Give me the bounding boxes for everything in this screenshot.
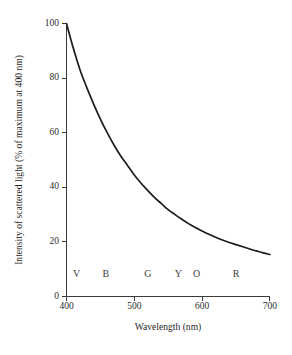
spectrum-band-labels: V B G Y O R bbox=[73, 268, 240, 279]
band-label-blue: B bbox=[102, 268, 109, 279]
scattering-intensity-curve bbox=[67, 24, 270, 255]
x-tick-label-500: 500 bbox=[127, 301, 142, 311]
y-tick-label-80: 80 bbox=[50, 72, 60, 82]
y-axis-title: Intensity of scattered light (% of maxim… bbox=[13, 55, 25, 265]
band-label-orange: O bbox=[193, 268, 200, 279]
x-tick-label-400: 400 bbox=[59, 301, 74, 311]
band-label-green: G bbox=[144, 268, 151, 279]
x-axis-ticks bbox=[67, 297, 270, 302]
y-axis-ticks bbox=[62, 24, 67, 297]
y-tick-label-100: 100 bbox=[45, 18, 60, 28]
scattering-intensity-figure: 0 20 40 60 80 100 400 500 600 700 V B G … bbox=[0, 0, 292, 355]
y-tick-label-40: 40 bbox=[50, 181, 60, 191]
band-label-violet: V bbox=[73, 268, 81, 279]
x-tick-label-700: 700 bbox=[263, 301, 278, 311]
band-label-red: R bbox=[233, 268, 240, 279]
y-tick-label-60: 60 bbox=[50, 127, 60, 137]
x-axis-title: Wavelength (nm) bbox=[135, 321, 202, 333]
y-tick-label-20: 20 bbox=[50, 236, 60, 246]
band-label-yellow: Y bbox=[175, 268, 182, 279]
rayleigh-scattering-chart: 0 20 40 60 80 100 400 500 600 700 V B G … bbox=[0, 0, 292, 355]
y-tick-label-0: 0 bbox=[54, 291, 59, 301]
x-tick-label-600: 600 bbox=[195, 301, 210, 311]
